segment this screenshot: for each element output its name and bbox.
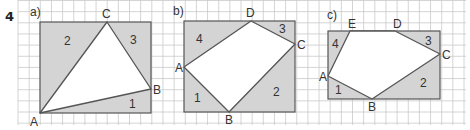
region-label: 2 (64, 34, 71, 48)
grid-diagrams: a)ABC231b)ABCD4321c)ABCDE4321 (0, 0, 470, 130)
region-label: 3 (130, 33, 137, 47)
region-label: 4 (332, 37, 339, 51)
region-label: 1 (129, 97, 136, 111)
region-label: 1 (194, 91, 201, 105)
region-label: 2 (273, 85, 280, 99)
panel-label: c) (327, 8, 337, 22)
vertex-label-b: B (368, 100, 376, 114)
vertex-label-a: A (319, 70, 327, 84)
vertex-label-a: A (30, 115, 38, 129)
vertex-label-c: C (442, 48, 451, 62)
vertex-label-e: E (348, 17, 356, 31)
panel-b: b)ABCD4321 (173, 4, 306, 127)
exercise-figure: 4 a)ABC231b)ABCD4321c)ABCDE4321 (0, 0, 470, 130)
panel-c: c)ABCDE4321 (319, 8, 451, 114)
panel-label: a) (30, 5, 41, 19)
vertex-label-a: A (175, 61, 183, 75)
vertex-label-d: D (393, 17, 402, 31)
region-label: 1 (335, 83, 342, 97)
vertex-label-d: D (246, 6, 255, 20)
region-label: 2 (420, 76, 427, 90)
region-label: 4 (196, 32, 203, 46)
region-label: 3 (279, 22, 286, 36)
region-label: 3 (425, 34, 432, 48)
panel-a: a)ABC231 (30, 5, 161, 129)
vertex-label-c: C (102, 7, 111, 21)
panel-label: b) (173, 4, 184, 18)
vertex-label-b: B (225, 113, 233, 127)
vertex-label-b: B (153, 83, 161, 97)
vertex-label-c: C (297, 38, 306, 52)
